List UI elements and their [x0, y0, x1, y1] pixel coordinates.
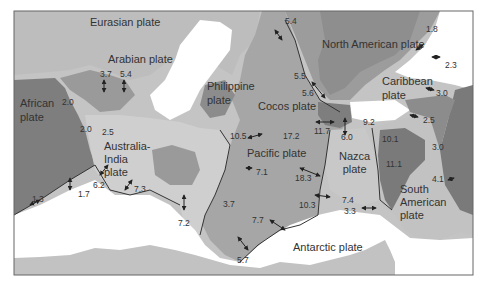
- label-line: American: [400, 196, 446, 208]
- rate-label: 2.0: [62, 98, 74, 107]
- rate-label: 2.5: [423, 116, 435, 125]
- rate-label: 6.0: [341, 133, 353, 142]
- rate-label: 7.4: [342, 196, 354, 205]
- rate-label: 7.7: [252, 216, 264, 225]
- rate-label: 1.3: [32, 195, 44, 204]
- label-line: Australia-: [104, 140, 150, 152]
- rate-label: 2.0: [80, 125, 92, 134]
- label-line: India: [104, 153, 128, 165]
- label-line: Nazca: [339, 150, 370, 162]
- rate-label: 3.7: [223, 200, 235, 209]
- label-line: plate: [343, 163, 367, 175]
- rate-label: 7.3: [134, 185, 146, 194]
- rate-label: 4.1: [432, 175, 444, 184]
- rate-label: 2.5: [102, 128, 114, 137]
- rate-label: 5.6: [302, 89, 314, 98]
- label-north-american-plate: North American plate: [322, 39, 425, 50]
- label-line: plate: [382, 89, 406, 101]
- label-caribbean-plate: Caribbean plate: [382, 75, 433, 103]
- label-african-plate: African plate: [20, 97, 54, 125]
- rate-label: 3.0: [432, 143, 444, 152]
- label-line: Philippine: [207, 80, 255, 92]
- rate-label: 3.0: [436, 89, 448, 98]
- rate-label: 17.2: [283, 132, 300, 141]
- rate-label: 9.2: [363, 118, 375, 127]
- rate-label: 5.4: [120, 70, 132, 79]
- label-line: African: [20, 97, 54, 109]
- rate-label: 1.7: [78, 190, 90, 199]
- label-australia-india-plate: Australia- India plate: [104, 140, 150, 180]
- rate-label: 10.1: [382, 135, 399, 144]
- label-cocos-plate: Cocos plate: [258, 101, 316, 112]
- rate-label: 5.7: [237, 256, 249, 265]
- label-arabian-plate: Arabian plate: [108, 54, 173, 65]
- rate-label: 18.3: [295, 174, 312, 183]
- rate-label: 7.1: [256, 168, 268, 177]
- label-line: plate: [104, 166, 128, 178]
- label-line: plate: [207, 94, 231, 106]
- rate-label: 6.2: [93, 181, 105, 190]
- label-south-american-plate: South American plate: [400, 183, 446, 223]
- label-philippine-plate: Philippine plate: [207, 80, 255, 108]
- label-pacific-plate: Pacific plate: [247, 148, 306, 159]
- label-line: Caribbean: [382, 75, 433, 87]
- label-antarctic-plate: Antarctic plate: [293, 242, 363, 253]
- rate-label: 1.8: [426, 25, 438, 34]
- label-line: South: [400, 183, 429, 195]
- rate-label: 10.5: [230, 132, 247, 141]
- rate-label: 3.3: [344, 207, 356, 216]
- rate-label: 7.2: [178, 219, 190, 228]
- rate-label: 5.5: [294, 72, 306, 81]
- rate-label: 5.4: [285, 17, 297, 26]
- rate-label: 3.7: [100, 70, 112, 79]
- label-line: plate: [400, 209, 424, 221]
- rate-label: 11.7: [314, 127, 330, 136]
- rate-label: 2.3: [445, 61, 457, 70]
- label-nazca-plate: Nazca plate: [339, 150, 370, 176]
- rate-label: 10.3: [299, 201, 316, 210]
- rate-label: 11.1: [386, 160, 402, 169]
- label-line: plate: [20, 111, 44, 123]
- label-eurasian-plate: Eurasian plate: [90, 17, 160, 28]
